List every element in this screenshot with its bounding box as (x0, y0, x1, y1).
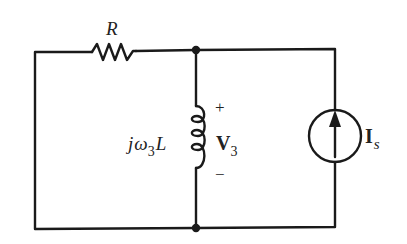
resistor-symbol (92, 44, 136, 60)
voltage-plus: + (215, 98, 225, 117)
node-bottom (192, 224, 200, 232)
circuit-diagram: R jω3L + V3 − Is (0, 0, 407, 244)
inductor-symbol (192, 106, 205, 168)
current-source-label: Is (365, 125, 380, 152)
wire-top-mid (136, 50, 196, 51)
resistor-label: R (105, 18, 118, 39)
current-arrow-head-icon (329, 110, 341, 127)
inductor-label: jω3L (125, 133, 166, 159)
node-top (192, 46, 200, 54)
wire-left (35, 52, 196, 229)
voltage-label: V3 (216, 132, 237, 159)
voltage-minus: − (215, 165, 225, 184)
